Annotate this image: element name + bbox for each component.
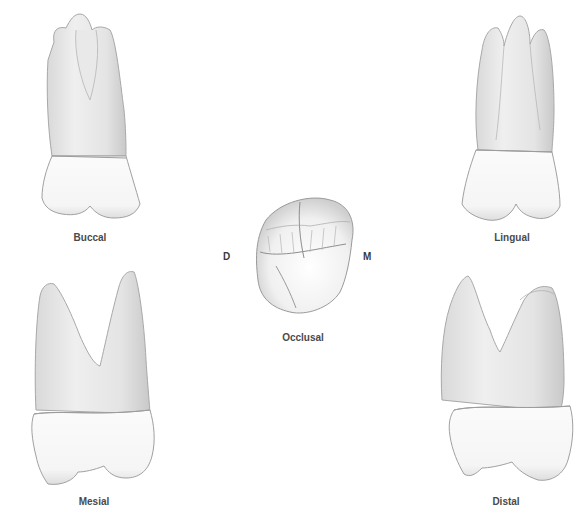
distal-label: Distal bbox=[486, 496, 526, 507]
lingual-label: Lingual bbox=[492, 232, 532, 243]
occlusal-tooth-illustration bbox=[200, 180, 400, 350]
distal-view: Distal bbox=[420, 260, 588, 510]
occlusal-view: Occlusal bbox=[200, 180, 400, 350]
mesial-view: Mesial bbox=[0, 260, 200, 510]
distal-orientation-marker: D bbox=[223, 251, 230, 262]
buccal-view: Buccal bbox=[0, 0, 200, 260]
mesial-tooth-illustration bbox=[0, 260, 200, 510]
mesial-orientation-marker: M bbox=[363, 251, 371, 262]
lingual-view: Lingual bbox=[420, 0, 588, 260]
lingual-tooth-illustration bbox=[420, 0, 588, 260]
distal-tooth-illustration bbox=[420, 260, 588, 510]
buccal-label: Buccal bbox=[70, 232, 110, 243]
occlusal-label: Occlusal bbox=[278, 332, 328, 343]
mesial-label: Mesial bbox=[74, 496, 114, 507]
buccal-tooth-illustration bbox=[0, 0, 200, 260]
